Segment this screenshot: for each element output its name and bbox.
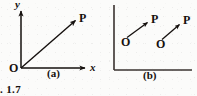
panel-a-caption: (a) (47, 68, 60, 79)
panel-a-vector-op (21, 21, 76, 69)
panel-b-vector-1-head-label: P (151, 13, 158, 25)
figure-vector-graphics (0, 0, 197, 96)
panel-b-vector-2-head-label: P (183, 14, 190, 26)
panel-b-vector-2-tail-label: O (156, 38, 165, 50)
panel-a-y-axis-label: y (15, 0, 20, 10)
panel-b-vector-1-tail-label: O (121, 36, 130, 48)
panel-b-caption: (b) (143, 70, 156, 81)
figure-container: y x O P (a) O P O P (b) g. 1.7 (0, 0, 197, 96)
panel-a-graphics (21, 11, 85, 68)
figure-caption: g. 1.7 (0, 84, 21, 95)
panel-a-origin-label: O (9, 62, 18, 74)
panel-a-x-axis-label: x (90, 62, 96, 73)
panel-a-point-p-label: P (79, 12, 86, 24)
